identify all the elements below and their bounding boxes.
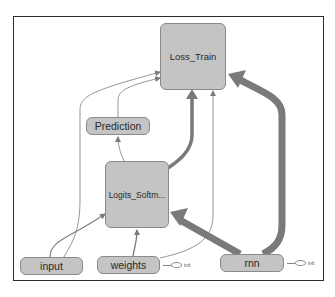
rnn-init-label: init: [308, 260, 314, 266]
init-oval-icon: [295, 260, 306, 266]
node-prediction[interactable]: Prediction: [86, 117, 150, 135]
init-oval-icon: [171, 262, 182, 268]
node-input-label: input: [40, 260, 63, 272]
weights-init-label: init: [184, 262, 190, 268]
edge-logits-to-loss-train[interactable]: [168, 98, 192, 168]
init-connector-line: [163, 265, 171, 266]
node-weights[interactable]: weights: [97, 256, 160, 274]
node-prediction-label: Prediction: [95, 120, 142, 132]
init-connector-line: [287, 263, 295, 264]
edge-prediction-to-loss-train[interactable]: [118, 78, 160, 117]
node-rnn[interactable]: rnn: [220, 254, 284, 272]
node-rnn-label: rnn: [244, 257, 259, 269]
node-weights-label: weights: [111, 259, 147, 271]
rnn-init-badge[interactable]: init: [287, 260, 314, 266]
node-input[interactable]: input: [20, 257, 83, 275]
node-loss-train[interactable]: Loss_Train: [160, 23, 226, 90]
edge-input-to-logits[interactable]: [50, 214, 105, 257]
edge-rnn-to-loss-train[interactable]: [240, 80, 282, 254]
weights-init-badge[interactable]: init: [163, 262, 190, 268]
node-logits-softmax[interactable]: Logits_Softm...: [105, 161, 169, 228]
node-loss-train-label: Loss_Train: [170, 51, 217, 62]
node-logits-softmax-label: Logits_Softm...: [109, 190, 166, 200]
edge-weights-to-logits[interactable]: [133, 230, 137, 256]
edge-logits-to-prediction[interactable]: [118, 137, 124, 161]
